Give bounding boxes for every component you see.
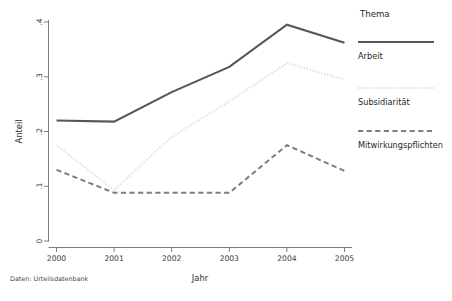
legend-label-arbeit[interactable]: Arbeit — [358, 51, 383, 61]
line-chart-figure: .4 .3 .2 .1 0 Anteil 2000 2001 2002 2003… — [0, 0, 452, 301]
x-tick-label-2001: 2001 — [104, 254, 123, 263]
footnote-text: Daten: Urteilsdatenbank — [10, 275, 89, 283]
legend-label-subsidiaritaet[interactable]: Subsidiarität — [358, 97, 410, 107]
x-tick-label-2002: 2002 — [162, 254, 181, 263]
y-tick-label-2: .2 — [35, 128, 44, 135]
x-tick-label-2004: 2004 — [277, 254, 296, 263]
series-group — [57, 25, 345, 193]
chart-canvas: .4 .3 .2 .1 0 Anteil 2000 2001 2002 2003… — [0, 0, 452, 301]
x-axis-ticks — [57, 248, 345, 253]
x-tick-label-2005: 2005 — [335, 254, 354, 263]
y-axis: .4 .3 .2 .1 0 Anteil — [14, 18, 49, 243]
y-axis-ticks — [44, 22, 49, 241]
y-tick-label-1: .1 — [35, 182, 44, 189]
series-line-arbeit — [57, 25, 345, 122]
x-tick-label-2000: 2000 — [47, 254, 66, 263]
y-tick-label-0: 0 — [35, 238, 44, 243]
x-axis: 2000 2001 2002 2003 2004 2005 Jahr — [47, 248, 354, 284]
y-tick-label-3: .3 — [35, 73, 44, 80]
x-tick-label-2003: 2003 — [220, 254, 239, 263]
series-line-subsidiaritaet — [57, 145, 345, 193]
legend: Thema Arbeit Subsidiarität Mitwirkungspf… — [358, 9, 443, 150]
series-line-mitwirkungspflichten — [57, 63, 345, 190]
legend-title: Thema — [359, 9, 390, 19]
y-axis-title: Anteil — [14, 119, 24, 143]
x-axis-title: Jahr — [191, 273, 209, 283]
y-tick-label-4: .4 — [35, 18, 44, 25]
legend-label-mitwirkungspflichten[interactable]: Mitwirkungspflichten — [358, 140, 443, 150]
